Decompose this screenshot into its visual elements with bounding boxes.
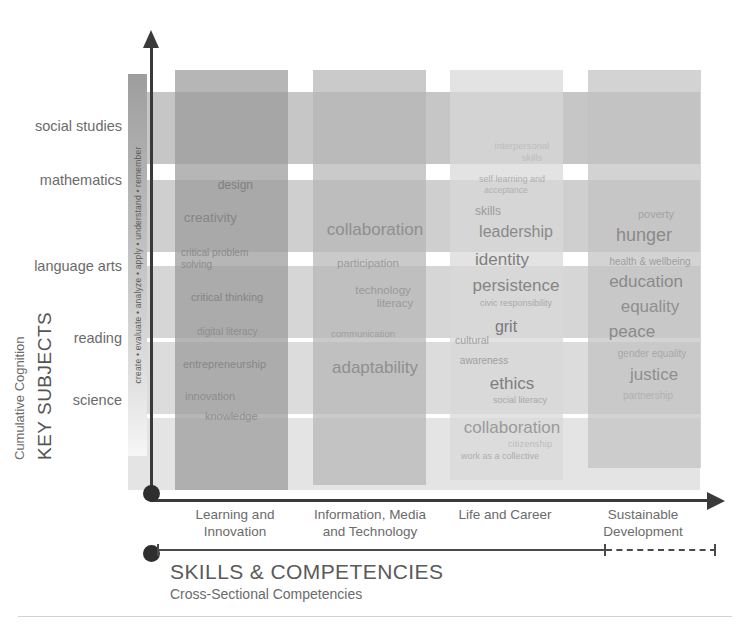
skill-word: skills: [522, 152, 543, 163]
column-band-1: [175, 70, 288, 490]
x-tick-line1: Information, Media: [305, 506, 435, 523]
x-axis-arrow-icon: [707, 492, 725, 510]
skill-word: entrepreneurship: [183, 358, 266, 370]
skill-word: interpersonal: [495, 140, 550, 151]
skill-word: creativity: [184, 210, 237, 225]
skill-word: persistence: [473, 276, 560, 296]
skill-word: poverty: [638, 208, 674, 220]
skill-word: education: [609, 272, 683, 292]
skill-word: digital literacy: [197, 326, 258, 337]
x-tick-line1: Sustainable: [578, 506, 708, 523]
skill-word: self learning and: [479, 174, 545, 184]
footer-divider: [18, 616, 732, 617]
skill-word: communication: [331, 328, 395, 339]
skill-word: gender equality: [618, 348, 686, 359]
skill-word: leadership: [479, 223, 553, 241]
x-tick-line2: Development: [578, 523, 708, 540]
column-band-2: [313, 70, 426, 485]
y-axis-subtitle-wrap: Cumulative Cognition: [12, 210, 32, 460]
skill-word: literacy: [377, 297, 413, 309]
x-tick-line1: Life and Career: [440, 506, 570, 523]
skill-word: health & wellbeing: [609, 256, 690, 267]
skill-word: solving: [181, 259, 212, 270]
skill-word: critical problem: [181, 247, 248, 258]
column-band-4: [588, 70, 701, 468]
skill-word: justice: [630, 365, 678, 385]
skill-word: awareness: [460, 355, 508, 366]
y-axis-subtitle: Cumulative Cognition: [12, 210, 32, 460]
y-axis-title: KEY SUBJECTS: [34, 200, 58, 460]
skill-word: ethics: [490, 374, 534, 394]
skill-word: equality: [621, 297, 680, 317]
skill-word: innovation: [185, 390, 235, 402]
skill-word: technology: [355, 284, 411, 296]
skill-word: citizenship: [508, 438, 552, 449]
x-tick-line2: Innovation: [170, 523, 300, 540]
skill-word: hunger: [616, 225, 672, 246]
x-axis-tick-3: Life and Career: [440, 506, 570, 523]
chart-canvas: designcreativitycritical problemsolvingc…: [0, 0, 750, 629]
x-axis-tick-4: SustainableDevelopment: [578, 506, 708, 540]
y-axis-tick-social-studies: social studies: [2, 118, 122, 134]
skill-word: grit: [495, 318, 517, 336]
bracket-dash-cap-right: [714, 544, 716, 556]
skill-word: collaboration: [327, 220, 423, 240]
x-axis-subtitle: Cross-Sectional Competencies: [170, 586, 362, 602]
y-axis-title-wrap: KEY SUBJECTS: [34, 200, 58, 460]
skill-word: critical thinking: [191, 291, 263, 303]
skill-word: acceptance: [484, 185, 527, 195]
skill-word: partnership: [623, 390, 673, 401]
skill-word: adaptability: [332, 358, 418, 378]
x-tick-line2: and Technology: [305, 523, 435, 540]
x-axis-line: [150, 499, 715, 502]
skill-word: participation: [337, 257, 399, 269]
skill-word: peace: [609, 322, 655, 342]
y-axis-arrow-icon: [143, 30, 159, 48]
skill-word: work as a collective: [461, 451, 539, 461]
skill-word: cultural: [455, 334, 489, 346]
origin-dot-upper: [143, 485, 160, 502]
cognition-scale-label: create • evaluate • analyze • apply • un…: [128, 74, 147, 456]
x-axis-tick-2: Information, Mediaand Technology: [305, 506, 435, 540]
y-axis-line: [150, 46, 153, 502]
bracket-cap-left: [157, 544, 159, 556]
y-axis-tick-mathematics: mathematics: [2, 172, 122, 188]
x-axis-title: SKILLS & COMPETENCIES: [170, 560, 443, 584]
competency-bracket-solid: [157, 549, 606, 551]
skill-word: skills: [475, 204, 501, 218]
x-tick-line1: Learning and: [170, 506, 300, 523]
skill-word: design: [218, 178, 253, 192]
skill-word: civic responsibility: [480, 298, 552, 308]
plot-area: designcreativitycritical problemsolvingc…: [150, 70, 715, 500]
skill-word: identity: [475, 250, 529, 270]
competency-bracket-dashed: [606, 549, 716, 551]
x-axis-tick-1: Learning andInnovation: [170, 506, 300, 540]
skill-word: collaboration: [464, 418, 560, 438]
skill-word: knowledge: [205, 410, 258, 422]
skill-word: social literacy: [493, 395, 547, 405]
